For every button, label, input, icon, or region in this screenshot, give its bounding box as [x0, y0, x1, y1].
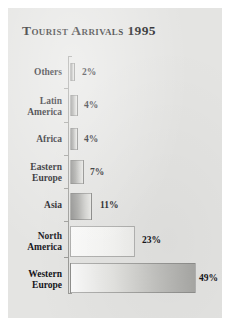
chart-panel: Tourist Arrivals 1995 Others 2% Latin Am…: [8, 8, 222, 318]
bar: [70, 128, 78, 150]
bar-value-label: 7%: [90, 167, 104, 177]
category-axis-line: [68, 56, 69, 294]
plot-area: Others 2% Latin America 4% Africa 4% Ea: [8, 54, 222, 304]
bar: [70, 263, 196, 293]
axis-tick: [64, 88, 69, 89]
axis-tick: [64, 155, 69, 156]
category-label: Others: [8, 67, 62, 78]
axis-tick: [64, 257, 69, 258]
axis-tick: [64, 122, 69, 123]
bar-value-label: 4%: [84, 134, 98, 144]
chart-title: Tourist Arrivals 1995: [22, 23, 156, 39]
bar: [70, 63, 75, 81]
bar-value-label: 4%: [84, 100, 98, 110]
bar-value-label: 23%: [142, 235, 161, 245]
axis-cap-bottom: [68, 293, 72, 294]
bar-value-label: 49%: [199, 273, 218, 283]
bar: [70, 160, 84, 184]
bar-value-label: 2%: [82, 67, 96, 77]
axis-cap-top: [68, 56, 72, 57]
category-label: Western Europe: [8, 269, 62, 290]
category-label: Africa: [8, 134, 62, 145]
category-label: Latin America: [8, 96, 62, 117]
axis-tick: [64, 188, 69, 189]
bar: [70, 193, 92, 220]
bar: [70, 226, 135, 257]
category-label: Asia: [8, 200, 62, 211]
bar-value-label: 11%: [100, 200, 118, 210]
category-label: North America: [8, 231, 62, 252]
category-label: Eastern Europe: [8, 162, 62, 183]
bar: [70, 95, 78, 116]
axis-tick: [64, 221, 69, 222]
